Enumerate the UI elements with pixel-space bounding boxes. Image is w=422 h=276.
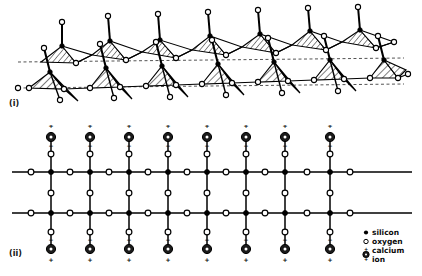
svg-text:−: − — [165, 236, 170, 243]
svg-text:+: + — [165, 125, 170, 129]
panel-label-ii: (ii) — [9, 250, 22, 258]
svg-text:−: − — [87, 142, 92, 149]
lattice-column: + − − + — [241, 125, 250, 263]
legend-item-oxygen: oxygen — [360, 237, 422, 246]
lattice-column: + − − + — [163, 125, 172, 263]
svg-text:−: − — [204, 236, 209, 243]
silicon-dot-icon — [360, 228, 372, 237]
calcium-ion-icon: + + — [360, 246, 372, 265]
lattice-column: + − − + — [325, 125, 334, 263]
svg-text:−: − — [126, 142, 131, 149]
legend-label-calcium-line2: ion — [372, 255, 404, 264]
panel-ii-schematic: + − − + + − − + — [0, 125, 422, 276]
svg-text:+: + — [327, 125, 332, 129]
lattice-column: + − − + — [85, 125, 94, 263]
silicate-structure-figure: (i) — [0, 0, 422, 276]
oxygen-circle-icon — [360, 237, 372, 246]
legend-label-silicon: silicon — [372, 228, 399, 237]
svg-text:+: + — [87, 125, 92, 129]
tetrahedra-chain-group — [15, 4, 410, 102]
svg-text:+: + — [243, 125, 248, 129]
panel-i-tetrahedra-chain — [0, 0, 422, 125]
svg-text:+: + — [165, 256, 170, 263]
svg-text:−: − — [165, 142, 170, 149]
svg-text:+: + — [282, 125, 287, 129]
svg-text:−: − — [243, 142, 248, 149]
svg-text:+: + — [364, 256, 368, 262]
legend: silicon oxygen + + calcium ion — [360, 228, 422, 264]
lattice-column: + − − + — [202, 125, 211, 263]
svg-text:−: − — [87, 236, 92, 243]
svg-text:−: − — [204, 142, 209, 149]
svg-text:−: − — [48, 142, 53, 149]
svg-text:+: + — [48, 125, 53, 129]
svg-text:+: + — [87, 256, 92, 263]
panel-label-i: (i) — [9, 100, 19, 108]
lattice-column: + − − + — [124, 125, 133, 263]
svg-text:+: + — [204, 256, 209, 263]
legend-item-calcium-ion: + + calcium ion — [360, 246, 422, 264]
legend-item-silicon: silicon — [360, 228, 422, 237]
lattice-column: + − − + — [46, 125, 55, 263]
svg-text:−: − — [126, 236, 131, 243]
svg-text:−: − — [282, 236, 287, 243]
svg-text:+: + — [204, 125, 209, 129]
svg-text:−: − — [48, 236, 53, 243]
lattice-column: + − − + — [280, 125, 289, 263]
schematic-lattice-group: + − − + + − − + — [12, 125, 412, 263]
svg-text:+: + — [126, 256, 131, 263]
svg-text:−: − — [243, 236, 248, 243]
svg-text:+: + — [282, 256, 287, 263]
svg-text:−: − — [327, 142, 332, 149]
svg-text:+: + — [243, 256, 248, 263]
svg-text:+: + — [48, 256, 53, 263]
legend-label-calcium: calcium — [372, 246, 404, 255]
svg-text:−: − — [282, 142, 287, 149]
svg-text:+: + — [126, 125, 131, 129]
svg-text:+: + — [327, 256, 332, 263]
legend-label-oxygen: oxygen — [372, 237, 403, 246]
svg-text:−: − — [327, 236, 332, 243]
